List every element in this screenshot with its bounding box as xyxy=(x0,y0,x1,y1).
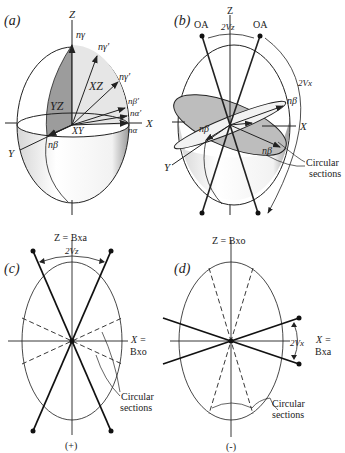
optic-axis-end xyxy=(256,211,261,216)
optic-axis-end xyxy=(258,34,263,39)
panel-b: (b) Z O xyxy=(164,5,341,216)
panel-c: (c) Z = Bxa 2Vz X = Bxo Circular section… xyxy=(4,232,154,452)
n-beta-label-3: nβ xyxy=(262,145,272,156)
xy-plane-label: XY xyxy=(71,125,85,136)
optical-indicatrix-figure: (a) Z X Y YZ XZ XY nγ nγ′ nγ′ xyxy=(0,0,345,453)
circular-sections-line1: Circular xyxy=(272,398,305,409)
circular-sections-line2: sections xyxy=(120,402,152,413)
origin xyxy=(70,339,75,344)
circular-sections-label: Circular sections xyxy=(306,157,341,179)
panel-a-label: (a) xyxy=(4,13,21,29)
x-axis-label-line1: X = xyxy=(315,334,331,345)
z-axis-label: Z xyxy=(227,5,233,16)
arrowhead xyxy=(291,322,297,327)
yz-plane-label: YZ xyxy=(50,99,64,113)
xz-plane-label: XZ xyxy=(88,79,103,93)
y-axis-label: Y xyxy=(8,147,16,159)
x-axis-label-line2: Bxo xyxy=(130,346,147,357)
leader-line xyxy=(212,403,252,408)
n-gamma-label: nγ xyxy=(76,29,86,40)
optic-axis-end xyxy=(297,362,302,367)
optic-axis-end xyxy=(200,211,205,216)
angle-2vz-arc xyxy=(208,34,254,38)
optic-axis-end xyxy=(297,316,302,321)
yz-plane xyxy=(46,45,72,136)
optic-axis-end xyxy=(31,249,36,254)
n-beta-label-2: nβ xyxy=(199,123,209,134)
optic-axis-end xyxy=(109,249,114,254)
n-alpha-label: nα xyxy=(128,125,138,135)
circular-sections-line2: sections xyxy=(309,168,341,179)
circular-sections-line1: Circular xyxy=(306,157,339,168)
panel-a: (a) Z X Y YZ XZ XY nγ nγ′ nγ′ xyxy=(4,8,154,215)
optic-sign-label: (-) xyxy=(226,441,236,453)
circular-sections-line2: sections xyxy=(272,409,304,420)
arrowhead xyxy=(291,355,297,360)
optic-sign-label: (+) xyxy=(65,440,77,452)
panel-d-label: (d) xyxy=(174,261,191,277)
angle-2vz-label: 2Vz xyxy=(221,22,235,32)
optic-axis-end xyxy=(200,34,205,39)
x-axis-label: X xyxy=(145,117,154,129)
z-axis-label: Z = Bxa xyxy=(54,232,87,243)
panel-c-label: (c) xyxy=(4,261,20,277)
optic-axis-label-left: OA xyxy=(194,19,209,30)
angle-2vx-label: 2Vx xyxy=(298,78,312,88)
arrowhead xyxy=(39,258,45,264)
circular-sections-line1: Circular xyxy=(121,391,154,402)
angle-2vx-label: 2Vx xyxy=(290,338,304,348)
n-gamma-prime-label-1: nγ′ xyxy=(98,41,110,52)
n-beta-label-1: nβ xyxy=(287,95,297,106)
n-alpha-prime-label: nα′ xyxy=(130,108,142,118)
y-axis-label: Y xyxy=(164,161,172,173)
x-axis-label-line2: Bxa xyxy=(315,346,332,357)
angle-2vz-label: 2Vz xyxy=(65,246,79,256)
optic-axis-end xyxy=(31,429,36,434)
x-axis-label-line1: X = xyxy=(130,334,146,345)
origin xyxy=(229,339,234,344)
n-beta-label: nβ xyxy=(48,139,58,150)
leader-line xyxy=(96,355,120,396)
panel-b-label: (b) xyxy=(174,13,191,29)
optic-axis-label-right: OA xyxy=(253,19,268,30)
optic-axis-end xyxy=(109,429,114,434)
z-axis-label: Z = Bxo xyxy=(212,235,245,246)
panel-d: (d) Z = Bxo 2Vx X = Bxa Circular section… xyxy=(163,235,332,453)
z-axis-label: Z xyxy=(69,8,76,20)
x-axis-label: X xyxy=(299,120,308,132)
n-beta-prime-label: nβ′ xyxy=(128,96,140,106)
arrowhead xyxy=(99,258,105,264)
n-gamma-prime-label-2: nγ′ xyxy=(119,71,131,82)
